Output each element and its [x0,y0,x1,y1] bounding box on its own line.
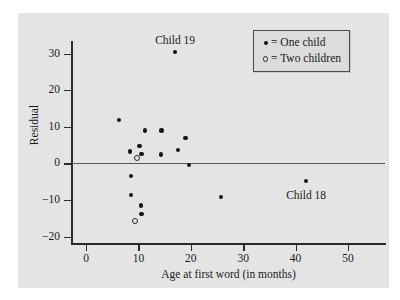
data-point-one-child [128,149,132,153]
data-point-one-child [176,148,180,152]
data-point-one-child [143,128,147,132]
y-tick-mark [64,200,71,201]
y-tick-mark [64,54,71,55]
chart-figure: 3020100−10−20 01020304050 Child 19Child … [0,0,400,300]
data-point-one-child [139,212,143,216]
y-tick-mark [64,127,71,128]
x-tick-mark [86,244,87,251]
data-point-two-children [132,218,138,224]
legend-label-one-child: = One child [271,35,325,51]
y-tick-label: 10 [20,121,60,133]
data-point-one-child [304,179,308,183]
data-point-one-child [173,50,177,54]
y-tick-mark [64,90,71,91]
y-tick-label: −20 [20,231,60,243]
y-tick-label: 20 [20,84,60,96]
x-tick-label: 0 [66,253,106,265]
x-tick-label: 30 [223,253,263,265]
legend-entry-one-child: = One child [261,35,341,51]
x-tick-label: 20 [171,253,211,265]
x-tick-mark [296,244,297,251]
legend: = One child = Two children [253,30,350,72]
chart-panel: 3020100−10−20 01020304050 Child 19Child … [18,13,389,288]
legend-entry-two-children: = Two children [261,51,341,67]
x-tick-mark [348,244,349,251]
data-point-one-child [219,195,223,199]
data-point-one-child [117,118,121,122]
legend-label-two-children: = Two children [271,51,341,67]
x-tick-label: 50 [328,253,368,265]
y-axis-line [71,41,73,244]
x-tick-mark [191,244,192,251]
x-tick-mark [243,244,244,251]
x-tick-mark [138,244,139,251]
data-point-one-child [159,152,163,156]
zero-reference-line [72,163,385,165]
data-point-one-child [129,174,133,178]
y-tick-label: 30 [20,48,60,60]
data-point-one-child [183,136,187,140]
data-point-one-child [139,152,143,156]
data-point-one-child [187,163,191,167]
x-tick-label: 10 [118,253,158,265]
data-point-two-children [134,155,140,161]
x-tick-label: 40 [276,253,316,265]
x-axis-title: Age at first word (in months) [71,268,386,280]
y-tick-mark [64,237,71,238]
filled-dot-icon [261,35,270,51]
y-axis-title: Residual [28,85,40,165]
open-circle-icon [261,51,270,67]
x-axis-line [71,243,386,245]
plot-area: 3020100−10−20 01020304050 Child 19Child … [18,13,389,288]
y-tick-label: −10 [20,194,60,206]
point-annotation: Child 19 [155,34,195,46]
y-tick-mark [64,163,71,164]
data-point-one-child [137,144,141,148]
data-point-one-child [159,128,163,132]
data-point-one-child [129,193,133,197]
point-annotation: Child 18 [286,189,326,201]
data-point-one-child [139,203,143,207]
y-tick-label: 0 [20,157,60,169]
